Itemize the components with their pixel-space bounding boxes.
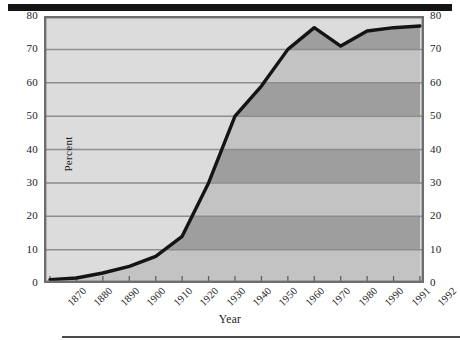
y-tick-right-20: 20 [430, 210, 458, 221]
chart-figure: Percent 00101020203030404050506060707080… [0, 0, 460, 340]
y-tick-right-40: 40 [430, 144, 458, 155]
y-tick-right-0: 0 [430, 277, 458, 288]
x-tick-1980: 1980 [356, 285, 379, 308]
y-tick-right-70: 70 [430, 43, 458, 54]
y-tick-left-40: 40 [10, 144, 38, 155]
x-tick-1870: 1870 [65, 285, 88, 308]
y-axis-title: Percent [62, 114, 74, 194]
y-tick-right-10: 10 [430, 244, 458, 255]
y-tick-left-20: 20 [10, 210, 38, 221]
x-tick-1920: 1920 [198, 285, 221, 308]
x-tick-1991: 1991 [409, 285, 432, 308]
x-tick-1880: 1880 [92, 285, 115, 308]
x-tick-1940: 1940 [250, 285, 273, 308]
footer-rule [62, 336, 460, 338]
x-tick-1890: 1890 [118, 285, 141, 308]
x-tick-1900: 1900 [145, 285, 168, 308]
y-tick-right-60: 60 [430, 77, 458, 88]
y-tick-left-80: 80 [10, 10, 38, 21]
y-tick-right-50: 50 [430, 110, 458, 121]
y-tick-left-70: 70 [10, 43, 38, 54]
x-tick-1910: 1910 [171, 285, 194, 308]
x-tick-1970: 1970 [330, 285, 353, 308]
x-tick-1990: 1990 [383, 285, 406, 308]
header-rule [8, 4, 452, 11]
y-tick-left-50: 50 [10, 110, 38, 121]
x-tick-1960: 1960 [303, 285, 326, 308]
x-tick-1950: 1950 [277, 285, 300, 308]
area-chart-svg [44, 16, 424, 283]
x-tick-1930: 1930 [224, 285, 247, 308]
y-tick-left-0: 0 [10, 277, 38, 288]
y-tick-right-30: 30 [430, 177, 458, 188]
y-tick-right-80: 80 [430, 10, 458, 21]
y-tick-left-30: 30 [10, 177, 38, 188]
x-axis-title: Year [0, 313, 460, 325]
plot-area: Percent 00101020203030404050506060707080… [44, 16, 424, 283]
y-tick-left-10: 10 [10, 244, 38, 255]
y-tick-left-60: 60 [10, 77, 38, 88]
x-tick-1992: 1992 [435, 285, 458, 308]
